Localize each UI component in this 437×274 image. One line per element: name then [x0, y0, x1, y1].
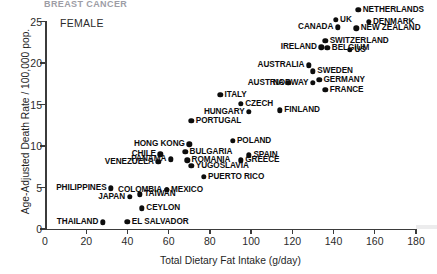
- data-point-label: POLAND: [237, 137, 271, 145]
- data-point-label: CZECH: [245, 99, 273, 107]
- scatter-plot: BREAST CANCER 0510152025 020406080100120…: [0, 0, 437, 274]
- data-point: [325, 45, 330, 50]
- data-point: [108, 186, 113, 191]
- x-tick-mark: [374, 229, 375, 234]
- data-point: [238, 101, 243, 106]
- data-point: [356, 7, 361, 12]
- data-point-label: JAPAN: [98, 192, 125, 200]
- x-tick-label: 100: [231, 236, 271, 247]
- x-tick-mark: [250, 229, 251, 234]
- data-point-label: UK: [340, 16, 352, 24]
- data-point: [333, 17, 338, 22]
- x-tick-label: 40: [107, 236, 147, 247]
- data-point-label: NETHERLANDS: [363, 6, 424, 14]
- data-point-label: PANAMA: [131, 155, 166, 163]
- scan-artifact: [416, 225, 437, 229]
- x-tick-label: 60: [149, 236, 189, 247]
- data-point: [137, 191, 142, 196]
- data-point-label: YUGOSLAVIA: [196, 162, 249, 170]
- data-point-label: THAILAND: [57, 218, 98, 226]
- data-point: [139, 206, 144, 211]
- x-tick-label: 80: [190, 236, 230, 247]
- data-point-label: FRANCE: [330, 85, 364, 93]
- x-axis-line: [45, 229, 416, 231]
- data-point: [323, 87, 328, 92]
- data-point-label: ITALY: [225, 90, 247, 98]
- data-point-label: NEW ZEALAND: [361, 24, 421, 32]
- x-tick-label: 180: [396, 236, 436, 247]
- data-point: [323, 38, 328, 43]
- data-point: [185, 157, 190, 162]
- data-point-label: PORTUGAL: [196, 117, 242, 125]
- data-point-label: CANADA: [298, 23, 333, 31]
- data-point: [189, 163, 194, 168]
- data-point-label: EL SALVADOR: [132, 217, 189, 225]
- data-point: [277, 108, 282, 113]
- x-tick-mark: [168, 229, 169, 234]
- data-point: [230, 138, 235, 143]
- x-tick-mark: [127, 229, 128, 234]
- x-tick-mark: [209, 229, 210, 234]
- data-point-label: CEYLON: [146, 204, 180, 212]
- y-axis-line: [45, 21, 47, 230]
- data-point-label: TAIWAN: [144, 190, 175, 198]
- x-tick-label: 0: [25, 236, 65, 247]
- data-point: [310, 80, 315, 85]
- data-point: [127, 194, 132, 199]
- data-point-label: IRELAND: [281, 43, 317, 51]
- data-point-label: GREECE: [245, 156, 279, 164]
- data-point: [310, 69, 315, 74]
- data-point-label: AUSTRALIA: [258, 61, 305, 69]
- data-point: [318, 45, 323, 50]
- x-tick-label: 20: [66, 236, 106, 247]
- clipped-title-fragment: BREAST CANCER: [44, 0, 214, 7]
- data-point: [316, 77, 321, 82]
- data-point-label: GERMANY: [324, 75, 366, 83]
- x-tick-mark: [333, 229, 334, 234]
- x-tick-label: 160: [355, 236, 395, 247]
- data-point: [168, 157, 173, 162]
- data-point-label: FINLAND: [284, 106, 320, 114]
- data-point-label: US: [354, 46, 365, 54]
- data-point: [189, 118, 194, 123]
- data-point: [306, 63, 311, 68]
- data-point-label: NORWAY: [273, 79, 309, 87]
- data-point: [182, 149, 187, 154]
- data-point: [125, 219, 130, 224]
- series-annotation-female: FEMALE: [60, 17, 104, 29]
- x-tick-label: 120: [272, 236, 312, 247]
- data-point-label: PUERTO RICO: [208, 173, 264, 181]
- data-point: [354, 25, 359, 30]
- y-axis-title: Age-Adjusted Death Rate / 100,000 pop.: [20, 12, 31, 232]
- x-tick-mark: [86, 229, 87, 234]
- x-axis-title: Total Dietary Fat Intake (g/day): [45, 255, 416, 266]
- data-point: [246, 109, 251, 114]
- data-point: [100, 220, 105, 225]
- data-point: [201, 174, 206, 179]
- data-point: [217, 92, 222, 97]
- x-tick-label: 140: [314, 236, 354, 247]
- x-tick-mark: [292, 229, 293, 234]
- data-point-label: HONG KONG: [134, 140, 185, 148]
- data-point: [335, 25, 340, 30]
- data-point-label: MEXICO: [171, 186, 203, 194]
- x-tick-mark: [415, 229, 416, 234]
